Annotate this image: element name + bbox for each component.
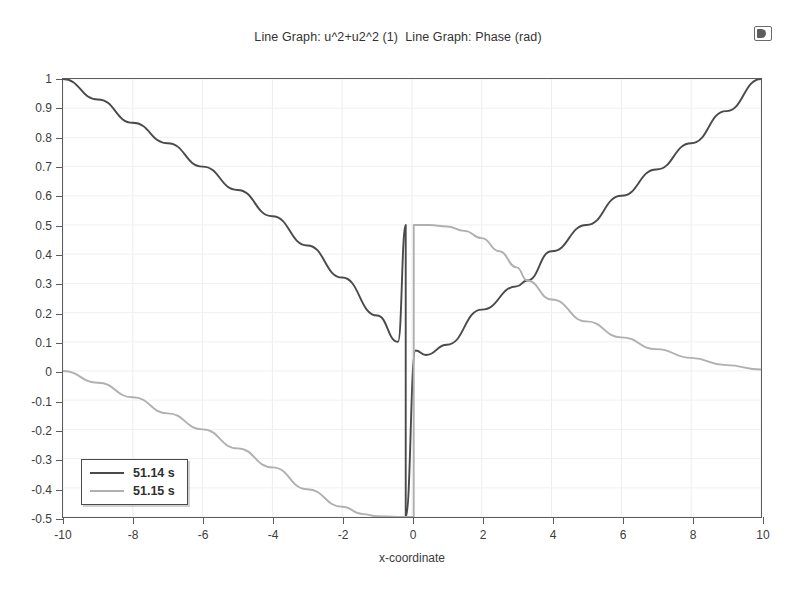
y-axis-tick-label: 0.7 xyxy=(35,160,52,174)
legend-swatch xyxy=(90,472,124,474)
y-axis-tick-label: 1 xyxy=(45,72,52,86)
x-axis-tick-label: 2 xyxy=(480,528,487,542)
x-axis-tick xyxy=(413,517,414,524)
x-axis-tick-label: -6 xyxy=(198,528,209,542)
x-axis-tick-label: -8 xyxy=(128,528,139,542)
plot-area: 10.90.80.70.60.50.40.30.20.10-0.1-0.2-0.… xyxy=(62,78,762,518)
y-axis-tick xyxy=(56,79,63,80)
y-axis-tick xyxy=(56,108,63,109)
y-axis-tick-label: -0.2 xyxy=(31,424,52,438)
x-axis-tick xyxy=(483,517,484,524)
y-axis-tick xyxy=(56,460,63,461)
y-axis-tick-label: -0.5 xyxy=(31,512,52,526)
y-axis-tick-label: 0.4 xyxy=(35,248,52,262)
chart-page: Line Graph: u^2+u2^2 (1) Line Graph: Pha… xyxy=(0,0,796,592)
y-axis-tick xyxy=(56,255,63,256)
x-axis-tick xyxy=(203,517,204,524)
x-axis-tick xyxy=(763,517,764,524)
x-axis-tick-label: 6 xyxy=(620,528,627,542)
x-axis-tick xyxy=(63,517,64,524)
y-axis-tick-label: 0.9 xyxy=(35,101,52,115)
display-window-icon-glyph xyxy=(757,29,766,38)
x-axis-tick xyxy=(343,517,344,524)
y-axis-tick xyxy=(56,167,63,168)
x-axis-tick xyxy=(273,517,274,524)
y-axis-tick-label: 0.8 xyxy=(35,131,52,145)
display-window-icon[interactable] xyxy=(754,26,772,41)
x-axis-tick-label: -4 xyxy=(268,528,279,542)
y-axis-tick-label: 0.5 xyxy=(35,219,52,233)
y-axis-tick xyxy=(56,431,63,432)
y-axis-tick-label: 0 xyxy=(45,365,52,379)
y-axis-tick xyxy=(56,284,63,285)
y-axis-tick-label: 0.1 xyxy=(35,336,52,350)
y-axis-tick xyxy=(56,138,63,139)
y-axis-tick xyxy=(56,343,63,344)
x-axis-tick-label: -2 xyxy=(338,528,349,542)
x-axis-tick xyxy=(133,517,134,524)
x-axis-title: x-coordinate xyxy=(63,551,761,565)
x-axis-tick-label: 4 xyxy=(550,528,557,542)
y-axis-tick xyxy=(56,226,63,227)
y-axis-tick-label: -0.4 xyxy=(31,483,52,497)
y-axis-tick xyxy=(56,372,63,373)
legend-swatch xyxy=(90,490,124,492)
y-axis-tick-label: 0.6 xyxy=(35,189,52,203)
x-axis-tick-label: 0 xyxy=(410,528,417,542)
legend-item[interactable]: 51.15 s xyxy=(90,484,175,498)
x-axis-tick-label: -10 xyxy=(54,528,71,542)
y-axis-tick xyxy=(56,314,63,315)
x-axis-tick-label: 8 xyxy=(690,528,697,542)
x-axis-tick-label: 10 xyxy=(756,528,769,542)
legend-item-label: 51.15 s xyxy=(133,484,175,498)
x-axis-tick xyxy=(693,517,694,524)
y-axis-tick-label: -0.3 xyxy=(31,453,52,467)
y-axis-tick-label: -0.1 xyxy=(31,395,52,409)
y-axis-tick-label: 0.2 xyxy=(35,307,52,321)
y-axis-tick xyxy=(56,519,63,520)
x-axis-tick xyxy=(623,517,624,524)
legend[interactable]: 51.14 s51.15 s xyxy=(81,459,188,505)
series-curves xyxy=(63,79,761,517)
y-axis-tick xyxy=(56,490,63,491)
y-axis-tick xyxy=(56,196,63,197)
legend-item-label: 51.14 s xyxy=(133,466,175,480)
y-axis-tick-label: 0.3 xyxy=(35,277,52,291)
y-axis-tick xyxy=(56,402,63,403)
legend-item[interactable]: 51.14 s xyxy=(90,466,175,480)
page-title: Line Graph: u^2+u2^2 (1) Line Graph: Pha… xyxy=(0,30,796,44)
x-axis-tick xyxy=(553,517,554,524)
